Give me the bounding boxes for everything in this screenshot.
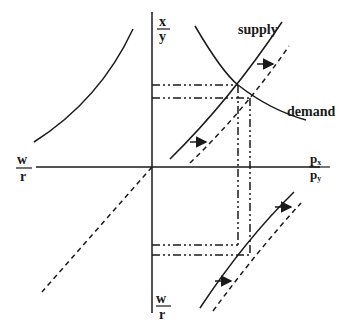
bottom-axis-denominator: r: [159, 307, 165, 322]
demand-label: demand: [287, 104, 335, 119]
supply-curve: [170, 22, 282, 159]
shifted-supply-dashed: [190, 46, 289, 163]
left-axis-numerator: w: [17, 152, 28, 167]
top-axis-denominator: y: [159, 29, 166, 44]
lower-left-dashed-line: [42, 167, 152, 292]
right-axis-numerator: px: [310, 151, 321, 167]
upper-left-curve: [34, 29, 133, 142]
right-axis-denominator: py: [310, 167, 321, 183]
lower-right-dashed: [213, 203, 301, 311]
lower-right-curve: [200, 192, 294, 308]
bottom-axis-numerator: w: [156, 291, 167, 306]
diagram-canvas: supply demand x y w r px py w r: [0, 0, 347, 331]
supply-label: supply: [238, 22, 278, 37]
left-axis-denominator: r: [20, 169, 26, 184]
top-axis-numerator: x: [159, 14, 166, 29]
